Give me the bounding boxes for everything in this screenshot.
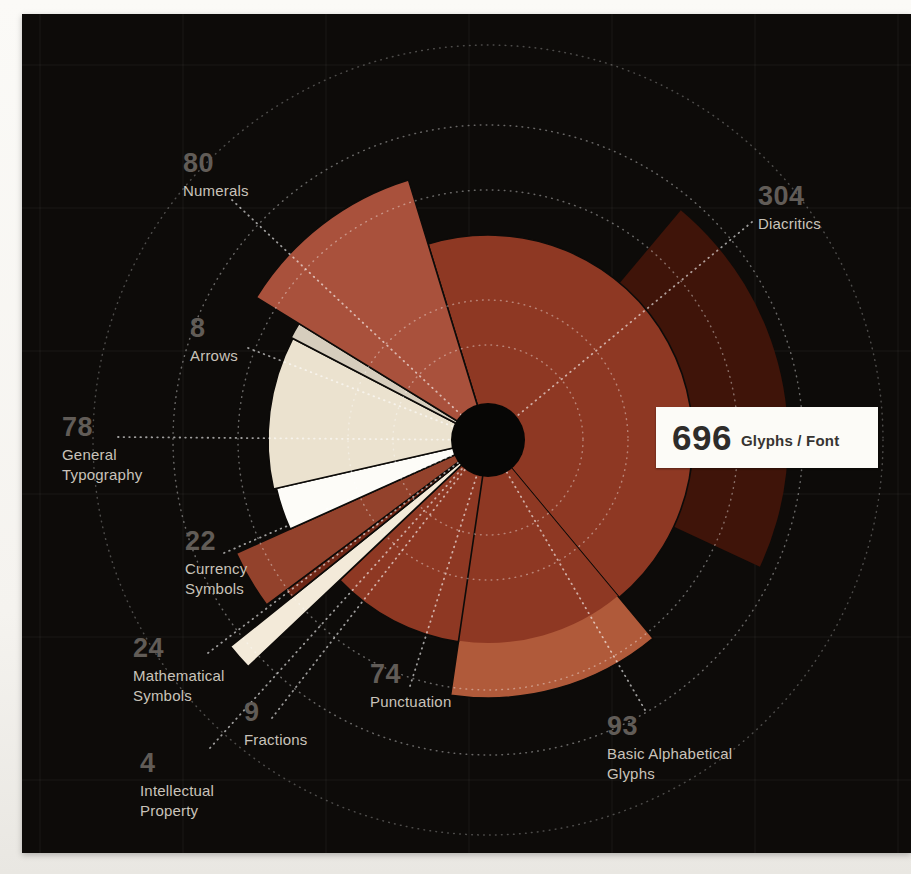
center-hole bbox=[451, 403, 525, 477]
total-glyphs-box: 696 Glyphs / Font bbox=[656, 407, 878, 468]
total-unit: Glyphs / Font bbox=[741, 432, 839, 449]
chart-panel: 304Diacritics93Basic AlphabeticalGlyphs7… bbox=[22, 14, 911, 853]
total-value: 696 bbox=[672, 418, 732, 458]
page: { "chart_data": { "type": "pie", "title"… bbox=[0, 0, 911, 874]
